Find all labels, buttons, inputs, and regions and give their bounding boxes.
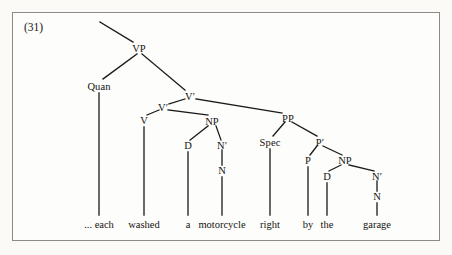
tree-node-nbar_obj: N′ [217,140,227,151]
syntax-tree-lines [0,0,452,255]
tree-node-d_obj: D [184,140,192,151]
tree-edge-np-d [190,126,208,140]
tree-edge-vp-quan [103,54,137,79]
tree-node-d_pp: D [323,171,331,182]
tree-edge-vbar-pp [196,99,282,113]
tree-edge-vbarlow-np [168,110,208,115]
terminal-word-washed: washed [128,219,160,230]
tree-edge-vp-vbar [142,54,185,90]
page-background: (31) VPQuanV′V′VNPDN′NPPSpecP′PNPDN′N ..… [0,0,452,255]
tree-node-n_pp: N [373,191,381,202]
tree-node-pp: PP [282,113,294,124]
tree-node-v: V [140,115,148,126]
tree-node-p: P [305,155,311,166]
terminal-word-the: the [321,219,334,230]
tree-node-vp: VP [132,43,146,54]
tree-node-spec: Spec [260,137,281,148]
tree-node-n_obj: N [218,165,226,176]
tree-node-quan: Quan [87,81,110,92]
terminal-word-each: ... each [84,219,114,230]
tree-node-pbar: P′ [316,137,324,148]
terminal-word-by: by [303,219,314,230]
tree-edge-pp-spec [273,122,285,136]
terminal-word-garage: garage [363,219,391,230]
tree-node-vbar_low: V′ [158,102,168,113]
terminal-word-motorcycle: motorcycle [198,219,245,230]
tree-edge-nppp-nbar [349,165,374,171]
tree-edge-root-stub [100,22,133,42]
tree-node-np_obj: NP [205,116,219,127]
terminal-word-right: right [260,219,280,230]
tree-node-vbar_top: V′ [185,91,195,102]
terminal-word-a: a [186,219,191,230]
tree-edge-np-nbar [216,126,221,140]
tree-node-nbar_pp: N′ [372,171,382,182]
tree-edge-pp-pbar [292,122,317,136]
tree-edge-vbar-vbarlow [169,99,185,104]
tree-node-np_pp: NP [338,155,352,166]
